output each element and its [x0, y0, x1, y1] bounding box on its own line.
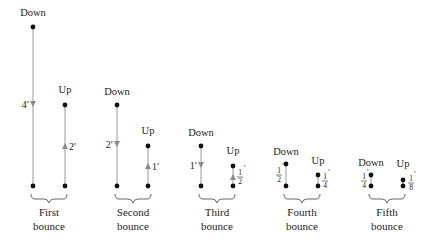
- fraction-denominator: 2: [238, 177, 242, 186]
- up-label: Up: [312, 155, 325, 166]
- dot: [31, 184, 36, 189]
- fraction-numerator: 1: [362, 172, 366, 181]
- dot: [369, 184, 374, 189]
- bounce-name: Third: [205, 206, 230, 218]
- brace-icon: [284, 194, 320, 203]
- down-arrow-icon: [114, 141, 120, 147]
- dot: [401, 184, 406, 189]
- bounce-name: First: [39, 206, 59, 218]
- down-label: Down: [358, 157, 384, 168]
- dot: [199, 184, 204, 189]
- dot: [284, 162, 289, 167]
- dot: [63, 103, 68, 108]
- down-label: Down: [273, 146, 299, 157]
- brace-icon: [115, 194, 151, 203]
- up-distance-fraction: 1 2 ′: [237, 164, 246, 186]
- dot: [401, 178, 406, 183]
- up-arrow-icon: [145, 163, 151, 169]
- bounce-caption: bounce: [117, 220, 149, 232]
- dot: [115, 103, 120, 108]
- bounce-group-first: Down 4′ Up 2′ First bounce: [20, 7, 76, 232]
- fraction-numerator: 1: [238, 168, 242, 177]
- down-label: Down: [20, 7, 46, 18]
- dot: [316, 184, 321, 189]
- down-distance-label: 2′: [106, 139, 113, 150]
- up-distance-label: 1′: [152, 161, 159, 172]
- bounce-name: Fifth: [376, 206, 398, 218]
- bounce-group-fourth: Down 1 2 ′ Up 1 4 ′ Fourth bounce: [273, 146, 330, 232]
- bounce-group-second: Down 2′ Up 1′ Second bounce: [104, 86, 159, 232]
- brace-icon: [369, 194, 405, 203]
- dot: [31, 25, 36, 30]
- down-distance-label: 4′: [22, 99, 29, 110]
- bounce-group-third: Down 1′ Up 1 2 ′ Third bounce: [188, 127, 246, 232]
- dot: [231, 184, 236, 189]
- down-label: Down: [104, 86, 130, 97]
- dot: [63, 184, 68, 189]
- dot: [146, 144, 151, 149]
- bounce-diagram: Down 4′ Up 2′ First bounce Down 2′ Up 1′…: [0, 0, 430, 244]
- fraction-denominator: 2: [277, 175, 281, 184]
- bounce-name: Second: [117, 206, 150, 218]
- bounce-caption: bounce: [33, 220, 65, 232]
- fraction-numerator: 1: [277, 166, 281, 175]
- fraction-denominator: 4: [362, 181, 366, 190]
- bounce-name: Fourth: [287, 206, 317, 218]
- down-distance-label: 1′: [190, 160, 197, 171]
- dot: [284, 184, 289, 189]
- up-label: Up: [142, 125, 155, 136]
- up-label: Up: [397, 158, 410, 169]
- bounce-caption: bounce: [286, 220, 318, 232]
- up-label: Up: [59, 84, 72, 95]
- dot: [199, 144, 204, 149]
- bounce-caption: bounce: [371, 220, 403, 232]
- dot: [115, 184, 120, 189]
- up-arrow-icon: [62, 143, 68, 149]
- down-label: Down: [188, 127, 214, 138]
- brace-icon: [31, 194, 67, 203]
- down-distance-fraction: 1 4 ′: [361, 168, 369, 190]
- fraction-denominator: 4: [323, 181, 327, 190]
- fraction-numerator: 1: [323, 172, 327, 181]
- up-label: Up: [227, 145, 240, 156]
- dot: [231, 164, 236, 169]
- feet-mark: ′: [244, 164, 246, 173]
- up-arrow-icon: [230, 174, 236, 180]
- dot: [369, 173, 374, 178]
- feet-mark: ′: [414, 170, 416, 179]
- brace-icon: [199, 194, 235, 203]
- up-distance-fraction: 1 4 ′: [322, 168, 330, 190]
- up-distance-label: 2′: [69, 141, 76, 152]
- down-arrow-icon: [30, 101, 36, 107]
- dot: [146, 184, 151, 189]
- bounce-caption: bounce: [201, 220, 233, 232]
- bounce-group-fifth: Down 1 4 ′ Up 1 8 ′ Fifth bounce: [358, 157, 416, 232]
- fraction-numerator: 1: [409, 174, 413, 183]
- down-arrow-icon: [198, 162, 204, 168]
- fraction-denominator: 8: [409, 183, 413, 192]
- feet-mark: ′: [328, 168, 330, 177]
- down-distance-fraction: 1 2 ′: [276, 162, 284, 184]
- dot: [316, 173, 321, 178]
- up-distance-fraction: 1 8 ′: [408, 170, 416, 192]
